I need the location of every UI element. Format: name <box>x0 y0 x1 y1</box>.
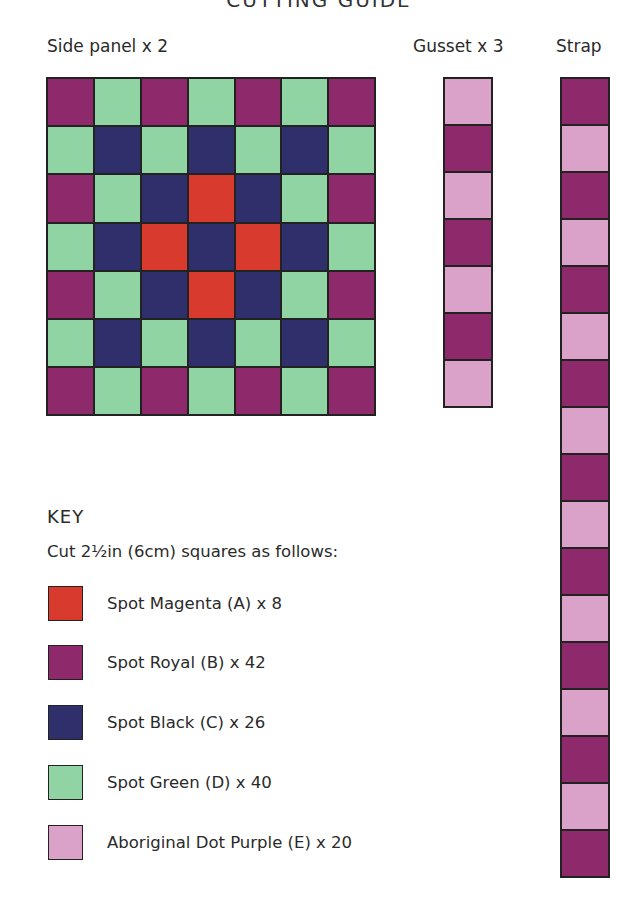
key-subtitle: Cut 2½in (6cm) squares as follows: <box>47 542 338 561</box>
fabric-square-B <box>561 360 609 407</box>
fabric-square-D <box>47 223 94 271</box>
swatch-magenta <box>48 586 83 621</box>
fabric-square-D <box>281 271 328 319</box>
key-item-magenta: Spot Magenta (A) x 8 <box>48 586 282 621</box>
fabric-square-D <box>235 126 282 174</box>
fabric-square-E <box>561 313 609 360</box>
fabric-square-B <box>561 266 609 313</box>
fabric-square-E <box>561 783 609 830</box>
fabric-square-D <box>281 78 328 126</box>
fabric-square-E <box>444 360 492 407</box>
fabric-square-C <box>94 126 141 174</box>
fabric-square-E <box>444 78 492 125</box>
swatch-royal <box>48 645 83 680</box>
fabric-square-E <box>561 219 609 266</box>
fabric-square-D <box>94 367 141 415</box>
fabric-square-D <box>281 367 328 415</box>
fabric-square-A <box>141 223 188 271</box>
fabric-square-B <box>141 78 188 126</box>
fabric-square-D <box>94 78 141 126</box>
fabric-square-C <box>188 223 235 271</box>
fabric-square-D <box>281 174 328 222</box>
fabric-square-C <box>281 223 328 271</box>
fabric-square-B <box>561 454 609 501</box>
fabric-square-D <box>328 223 375 271</box>
fabric-square-B <box>328 174 375 222</box>
swatch-green <box>48 765 83 800</box>
fabric-square-C <box>94 223 141 271</box>
fabric-square-E <box>561 595 609 642</box>
fabric-square-E <box>444 172 492 219</box>
fabric-square-D <box>328 126 375 174</box>
fabric-square-C <box>281 126 328 174</box>
key-item-black: Spot Black (C) x 26 <box>48 705 265 740</box>
fabric-square-B <box>444 313 492 360</box>
strap-column <box>560 77 610 878</box>
swatch-black <box>48 705 83 740</box>
fabric-square-C <box>235 271 282 319</box>
strap-label: Strap <box>556 36 602 56</box>
fabric-square-D <box>141 126 188 174</box>
fabric-square-E <box>561 125 609 172</box>
key-item-label: Aboriginal Dot Purple (E) x 20 <box>107 833 352 852</box>
fabric-square-D <box>47 126 94 174</box>
fabric-square-A <box>188 271 235 319</box>
fabric-square-B <box>328 78 375 126</box>
fabric-square-D <box>47 319 94 367</box>
fabric-square-B <box>47 271 94 319</box>
fabric-square-D <box>328 319 375 367</box>
gusset-label: Gusset x 3 <box>413 36 503 56</box>
fabric-square-C <box>141 271 188 319</box>
side-panel-grid <box>46 77 376 416</box>
fabric-square-B <box>47 78 94 126</box>
key-item-label: Spot Black (C) x 26 <box>107 713 265 732</box>
side-panel-label: Side panel x 2 <box>47 36 168 56</box>
fabric-square-A <box>188 174 235 222</box>
fabric-square-E <box>561 689 609 736</box>
fabric-square-C <box>188 319 235 367</box>
fabric-square-B <box>47 174 94 222</box>
key-item-label: Spot Magenta (A) x 8 <box>107 594 282 613</box>
swatch-purple <box>48 825 83 860</box>
fabric-square-B <box>328 367 375 415</box>
fabric-square-E <box>444 266 492 313</box>
key-item-green: Spot Green (D) x 40 <box>48 765 272 800</box>
fabric-square-B <box>328 271 375 319</box>
fabric-square-D <box>188 367 235 415</box>
fabric-square-B <box>444 219 492 266</box>
fabric-square-D <box>235 319 282 367</box>
fabric-square-B <box>561 830 609 877</box>
fabric-square-B <box>235 367 282 415</box>
key-title: KEY <box>47 506 84 527</box>
fabric-square-D <box>188 78 235 126</box>
fabric-square-B <box>561 548 609 595</box>
fabric-square-D <box>141 319 188 367</box>
fabric-square-B <box>561 172 609 219</box>
fabric-square-B <box>47 367 94 415</box>
key-item-purple: Aboriginal Dot Purple (E) x 20 <box>48 825 352 860</box>
fabric-square-D <box>94 174 141 222</box>
fabric-square-E <box>561 501 609 548</box>
fabric-square-C <box>141 174 188 222</box>
fabric-square-C <box>188 126 235 174</box>
fabric-square-B <box>561 642 609 689</box>
key-item-label: Spot Green (D) x 40 <box>107 773 272 792</box>
fabric-square-E <box>561 407 609 454</box>
key-item-royal: Spot Royal (B) x 42 <box>48 645 266 680</box>
fabric-square-B <box>561 78 609 125</box>
gusset-column <box>443 77 493 408</box>
fabric-square-B <box>444 125 492 172</box>
fabric-square-A <box>235 223 282 271</box>
fabric-square-B <box>561 736 609 783</box>
fabric-square-B <box>141 367 188 415</box>
fabric-square-C <box>281 319 328 367</box>
fabric-square-C <box>235 174 282 222</box>
page-title: CUTTING GUIDE <box>0 0 638 12</box>
key-item-label: Spot Royal (B) x 42 <box>107 653 266 672</box>
fabric-square-C <box>94 319 141 367</box>
fabric-square-B <box>235 78 282 126</box>
fabric-square-D <box>94 271 141 319</box>
